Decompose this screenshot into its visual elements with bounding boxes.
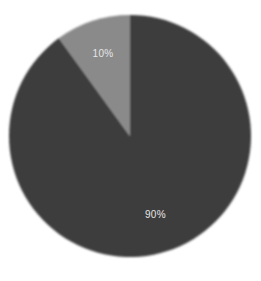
pie-chart-svg xyxy=(0,0,261,281)
slice-label-90: 90% xyxy=(145,209,166,220)
slice-label-10: 10% xyxy=(93,48,114,59)
